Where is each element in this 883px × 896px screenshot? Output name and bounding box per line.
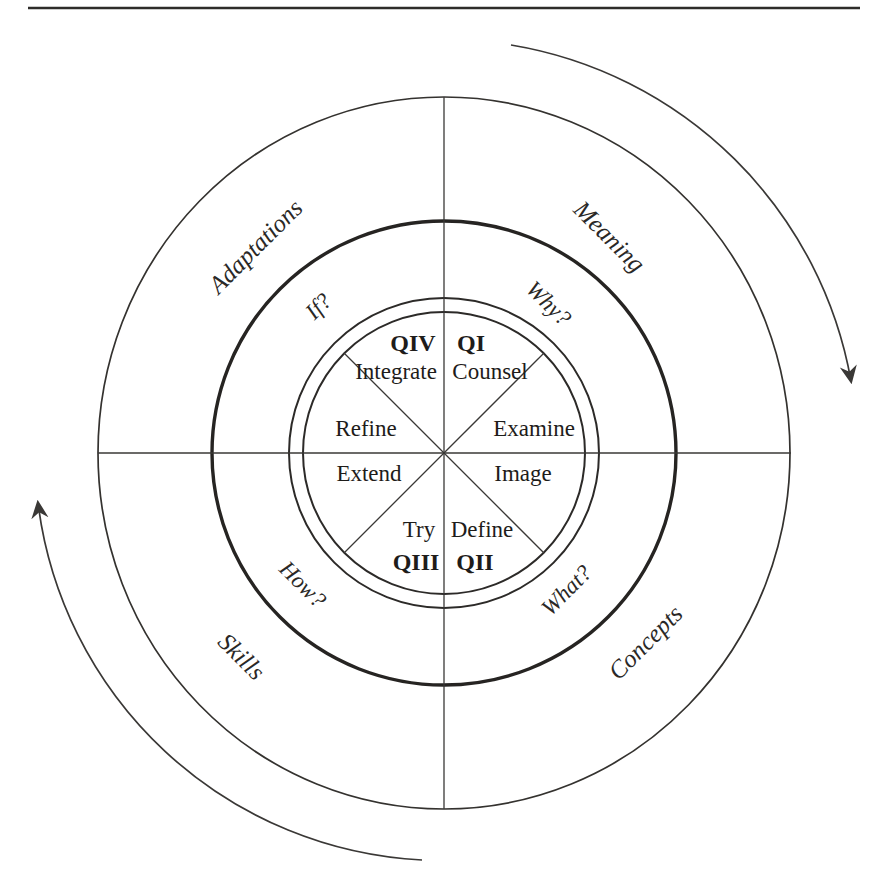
cycle-wheel-diagram: QIV QI QIII QII Integrate Counsel Refine… xyxy=(0,0,883,896)
book-page: QIV QI QIII QII Integrate Counsel Refine… xyxy=(0,0,883,896)
outer-label-adaptations: Adaptations xyxy=(202,194,308,300)
sector-word-refine: Refine xyxy=(335,416,396,441)
sector-word-try: Try xyxy=(403,517,436,542)
quadrant-code-qiv: QIV xyxy=(390,330,436,356)
outer-label-concepts: Concepts xyxy=(603,600,688,685)
sector-word-define: Define xyxy=(451,517,514,542)
sector-word-counsel: Counsel xyxy=(452,359,527,384)
question-label-if: If? xyxy=(300,288,337,325)
quadrant-code-qiii: QIII xyxy=(393,549,440,575)
sector-word-image: Image xyxy=(494,461,551,486)
sector-word-integrate: Integrate xyxy=(355,359,437,384)
outer-label-skills: Skills xyxy=(213,628,270,685)
question-label-how: How? xyxy=(274,555,332,613)
sector-word-extend: Extend xyxy=(336,461,402,486)
quadrant-code-qii: QII xyxy=(456,549,493,575)
sector-word-examine: Examine xyxy=(493,416,575,441)
clockwise-arrow-bottom-left-icon xyxy=(38,503,422,860)
clockwise-arrow-top-right-icon xyxy=(511,45,851,381)
quadrant-code-qi: QI xyxy=(457,330,485,356)
